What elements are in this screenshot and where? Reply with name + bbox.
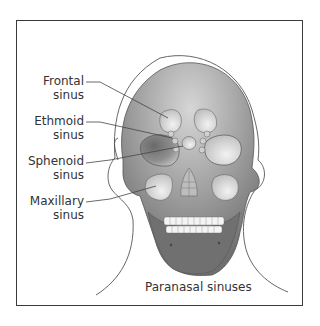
label-line1: Maxillary xyxy=(30,194,84,208)
label-line1: Sphenoid xyxy=(28,154,84,168)
maxillary-sinus-left xyxy=(145,174,172,200)
orbit-right xyxy=(205,135,242,165)
frontal-sinus-left xyxy=(160,110,182,133)
label-ethmoid-sinus: Ethmoid sinus xyxy=(34,114,84,142)
label-line1: Ethmoid xyxy=(34,114,84,128)
label-line2: sinus xyxy=(30,208,84,222)
label-line2: sinus xyxy=(34,128,84,142)
label-line2: sinus xyxy=(28,168,84,182)
teeth xyxy=(164,217,224,233)
figure-caption: Paranasal sinuses xyxy=(145,280,252,294)
label-line2: sinus xyxy=(43,88,84,102)
maxillary-sinus-right xyxy=(212,175,238,201)
label-sphenoid-sinus: Sphenoid sinus xyxy=(28,154,84,182)
label-line1: Frontal xyxy=(43,74,84,88)
label-maxillary-sinus: Maxillary sinus xyxy=(30,194,84,222)
label-frontal-sinus: Frontal sinus xyxy=(43,74,84,102)
sphenoid-sinus xyxy=(182,137,196,150)
